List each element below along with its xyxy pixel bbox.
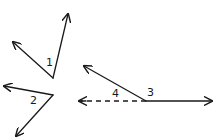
angle-2-ray-left — [4, 86, 53, 95]
angle-1-ray-up — [53, 14, 68, 78]
angle-3-label: 3 — [147, 86, 154, 99]
angle-4-label: 4 — [112, 87, 119, 100]
angle-2-label: 2 — [30, 94, 37, 107]
angles-3-4-figure: 4 3 — [79, 66, 212, 101]
angle-2-figure: 2 — [4, 86, 53, 136]
angle-diagram: 1 2 4 3 — [0, 0, 218, 140]
angle-1-label: 1 — [46, 56, 53, 69]
angle-1-figure: 1 — [13, 14, 68, 78]
